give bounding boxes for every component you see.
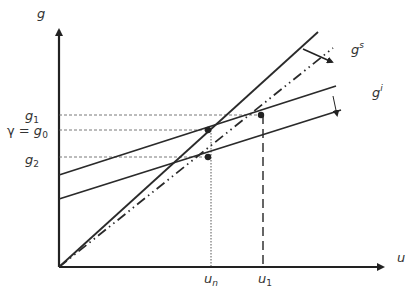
gs-shifted-line (59, 32, 318, 267)
tick-label-un: un (204, 271, 218, 288)
equilibrium-point-g0 (205, 127, 211, 133)
y-axis-label: g (37, 6, 45, 21)
equilibrium-point-g2 (205, 154, 211, 160)
gi-lower-line (59, 110, 341, 199)
equilibrium-point-g1 (258, 112, 264, 118)
tick-label-g0: γ = g0 (7, 123, 48, 140)
gs-line (59, 48, 333, 267)
diagram-canvas: g u g1 γ = g0 g2 un u1 gs gi (0, 0, 413, 293)
gi-curve-label: gi (372, 83, 383, 100)
gi-upper-line (59, 86, 336, 175)
x-axis-label: u (397, 250, 405, 265)
tick-label-u1: u1 (258, 271, 272, 288)
tick-label-g2: g2 (25, 152, 39, 169)
gs-curve-label: gs (351, 40, 364, 57)
